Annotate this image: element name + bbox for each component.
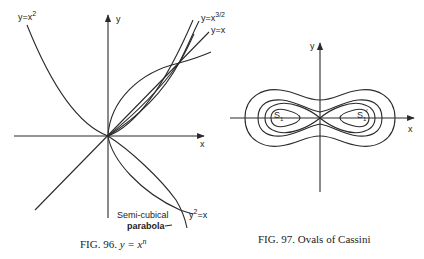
label-x-axis: x xyxy=(200,139,205,149)
label-x-axis: x xyxy=(408,124,413,134)
curve-sideways-parabola-lower xyxy=(108,136,193,214)
label-focus-left: S1 xyxy=(274,110,284,122)
curve-y-equals-x-squared xyxy=(27,20,193,136)
curve-intermediate xyxy=(108,34,194,136)
label-semicubical-note-2: parabola xyxy=(127,221,166,231)
label-semicubical-note-1: Semi-cubical xyxy=(117,210,169,220)
caption-fig-96: FIG. 96. y = xn xyxy=(80,237,146,250)
figure-97: y x S1 S1′ FIG. 97. Ovals of Cassini xyxy=(230,41,414,245)
label-y-squared-equals-x: y2=x xyxy=(189,208,208,220)
leader-line-parabola xyxy=(165,225,172,226)
label-y-axis: y xyxy=(116,14,121,24)
figure-96: y=x2 y y=x3/2 y=x x Semi-cubical parabol… xyxy=(14,10,226,250)
figure-canvas: y=x2 y y=x3/2 y=x x Semi-cubical parabol… xyxy=(0,0,424,259)
curve-y-equals-x xyxy=(35,32,209,210)
label-focus-right: S1′ xyxy=(357,108,368,122)
label-y-axis: y xyxy=(310,41,315,51)
label-y-equals-x: y=x xyxy=(211,25,226,35)
label-y-x-three-halves: y=x3/2 xyxy=(201,11,225,23)
caption-fig-97: FIG. 97. Ovals of Cassini xyxy=(258,233,370,245)
label-y-x-squared: y=x2 xyxy=(18,10,36,22)
